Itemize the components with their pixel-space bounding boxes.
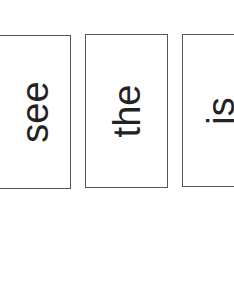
word-card-the[interactable]: the [85, 34, 168, 188]
card-word: see [16, 81, 54, 142]
word-card-see[interactable]: see [0, 35, 71, 189]
card-word: the [108, 85, 146, 138]
card-word: is [202, 97, 234, 124]
word-card-is[interactable]: is [182, 34, 234, 187]
